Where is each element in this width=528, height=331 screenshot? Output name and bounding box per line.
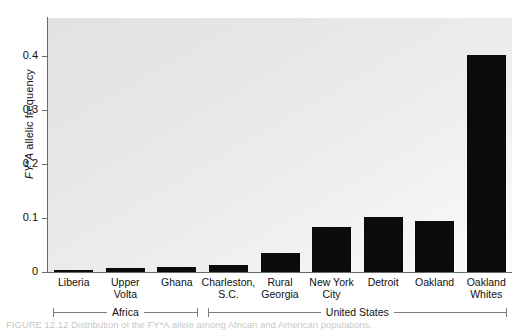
y-tick-label: 0	[0, 265, 38, 277]
bar	[415, 221, 454, 272]
y-tick-label: 0.2	[0, 157, 38, 169]
y-tick-label: 0.1	[0, 211, 38, 223]
bar	[261, 253, 300, 272]
bar	[157, 267, 196, 272]
group-bracket-label: United States	[321, 306, 394, 319]
group-bracket-cap-right	[197, 308, 198, 317]
group-bracket-cap-left	[208, 308, 209, 317]
group-bracket-cap-left	[53, 308, 54, 317]
bar	[312, 227, 351, 272]
y-tick-label: 0.3	[0, 103, 38, 115]
bar	[467, 55, 506, 272]
x-axis-label-line: Whites	[456, 289, 516, 301]
x-axis-label-line: Volta	[96, 289, 156, 301]
bar	[54, 270, 93, 272]
figure-bar-chart: FY*A allelic frequency 00.10.20.30.4 Lib…	[0, 0, 528, 331]
group-bracket-label: Africa	[107, 306, 144, 319]
group-bracket-cap-right	[506, 308, 507, 317]
y-tick-label: 0.4	[0, 49, 38, 61]
bar	[209, 265, 248, 272]
x-axis-line	[47, 272, 512, 273]
figure-caption-clipped: FIGURE 12.12 Distribution of the FY*A al…	[0, 322, 528, 331]
x-axis-label: OaklandWhites	[456, 277, 516, 300]
x-axis-label-line: Oakland	[456, 277, 516, 289]
bars-layer	[48, 18, 512, 272]
group-bracket: Africa	[53, 306, 198, 320]
bar	[364, 217, 403, 272]
y-axis-title: FY*A allelic frequency	[23, 34, 35, 214]
bar	[106, 268, 145, 272]
group-bracket: United States	[208, 306, 507, 320]
x-axis-label-line: City	[302, 289, 362, 301]
figure-caption-text: FIGURE 12.12 Distribution of the FY*A al…	[6, 322, 372, 330]
